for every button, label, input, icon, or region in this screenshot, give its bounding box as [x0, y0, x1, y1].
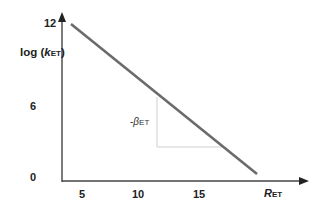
x-axis-label: RET	[264, 187, 282, 199]
x-tick-15: 15	[193, 188, 205, 200]
y-tick-6: 6	[30, 100, 36, 112]
y-tick-0: 0	[30, 171, 36, 183]
chart-canvas	[0, 0, 315, 207]
y-axis-arrow-icon	[58, 12, 66, 22]
slope-annotation: -βET	[130, 116, 149, 127]
y-tick-12: 12	[44, 17, 56, 29]
x-tick-10: 10	[132, 188, 144, 200]
x-tick-5: 5	[79, 188, 85, 200]
y-axis-label: log (kET)	[20, 46, 65, 58]
x-axis-arrow-icon	[299, 177, 309, 185]
data-line	[71, 24, 257, 174]
